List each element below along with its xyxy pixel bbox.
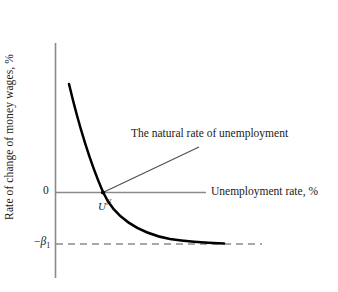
natural-rate-point-marker: [101, 190, 105, 194]
natural-rate-annotation-text: The natural rate of unemployment: [131, 128, 288, 140]
y-axis-title: Rate of change of money wages, %: [0, 0, 20, 292]
x-axis-title: Unemployment rate, %: [211, 186, 318, 198]
natural-rate-point-superscript: N: [106, 198, 111, 207]
chart-canvas: [0, 0, 338, 292]
natural-rate-point-letter: U: [98, 200, 106, 212]
y-axis-title-text: Rate of change of money wages, %: [4, 54, 16, 220]
y-axis-tick-zero: 0: [43, 185, 49, 197]
y-axis-tick-minus-beta-one: −β1: [34, 236, 50, 250]
phillips-curve-figure: Rate of change of money wages, % 0 −β1 U…: [0, 0, 338, 292]
natural-rate-point-label: UN: [98, 199, 111, 212]
annotation-leader-line: [104, 147, 199, 192]
phillips-curve-path: [69, 84, 224, 244]
beta-subscript: 1: [46, 241, 50, 250]
